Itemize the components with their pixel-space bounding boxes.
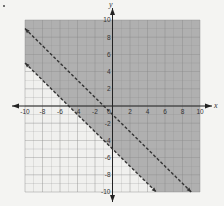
y-tick-label: -2 [105, 120, 111, 127]
x-tick-label: 10 [196, 108, 204, 115]
y-tick-label: 10 [103, 16, 111, 23]
y-tick-label: 8 [107, 34, 111, 41]
origin-label: 0 [107, 108, 111, 115]
x-axis-left-arrow-icon [12, 104, 19, 109]
x-tick-label: -4 [75, 108, 81, 115]
x-axis-right-arrow-icon [205, 104, 212, 109]
x-tick-label: 6 [163, 108, 167, 115]
y-tick-label: 6 [107, 51, 111, 58]
x-tick-label: 4 [146, 108, 150, 115]
y-tick-label: -6 [105, 154, 111, 161]
x-tick-label: 8 [181, 108, 185, 115]
y-tick-label: -8 [105, 171, 111, 178]
x-tick-label: -10 [20, 108, 30, 115]
x-tick-label: -2 [92, 108, 98, 115]
y-tick-label: -4 [105, 137, 111, 144]
y-tick-label: 4 [107, 68, 111, 75]
y-axis-down-arrow-icon [110, 195, 115, 202]
y-axis-label: y [109, 0, 113, 9]
x-tick-label: -6 [57, 108, 63, 115]
y-axis-up-arrow-icon [110, 8, 115, 15]
x-tick-label: -8 [40, 108, 46, 115]
x-axis-label: x [214, 101, 218, 110]
coordinate-plane: -10-8-6-4-2246810108642-2-4-6-8-100 [0, 0, 224, 206]
y-tick-label: -10 [101, 188, 111, 195]
stray-dot [3, 5, 5, 7]
y-tick-label: 2 [107, 85, 111, 92]
x-tick-label: 2 [128, 108, 132, 115]
